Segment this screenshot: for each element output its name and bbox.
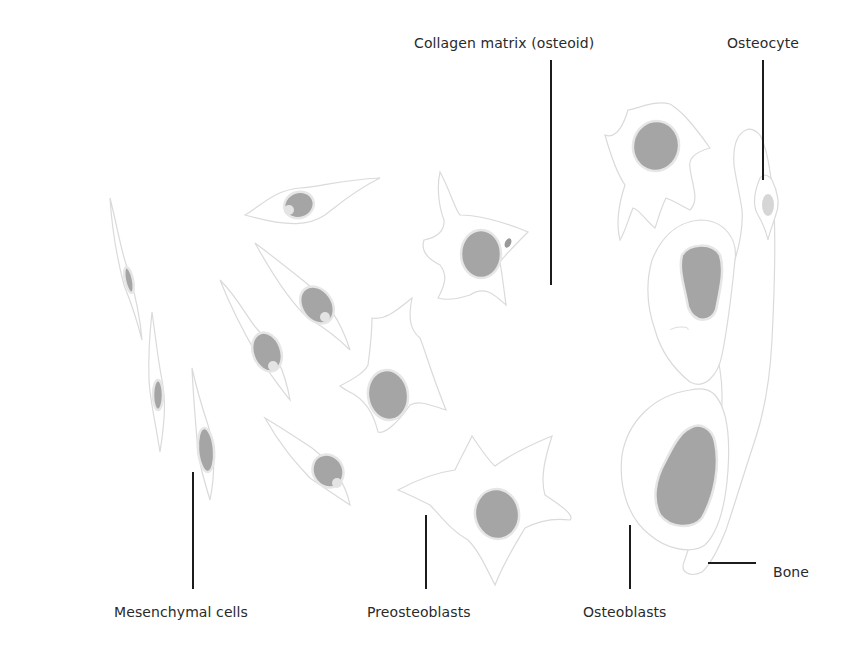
preosteoblasts-leader-line	[425, 515, 427, 589]
osteoblasts-leader-line	[629, 525, 631, 589]
collagen-leader-line	[550, 60, 552, 285]
label-osteoblasts: Osteoblasts	[583, 604, 667, 620]
bone-leader-line	[708, 562, 756, 564]
label-preosteoblasts: Preosteoblasts	[367, 604, 471, 620]
label-collagen-matrix: Collagen matrix (osteoid)	[414, 35, 594, 51]
osteoblast-bottom	[621, 389, 728, 550]
label-bone: Bone	[773, 564, 809, 580]
osteocyte-leader-line	[762, 60, 764, 180]
label-osteocyte: Osteocyte	[727, 35, 799, 51]
mesenchymal-leader-line	[192, 472, 194, 589]
preosteoblast-group	[340, 172, 571, 585]
mesenchymal-cell-group	[110, 178, 380, 505]
label-mesenchymal-cells: Mesenchymal cells	[114, 604, 248, 620]
osteoblast-top	[605, 103, 710, 240]
